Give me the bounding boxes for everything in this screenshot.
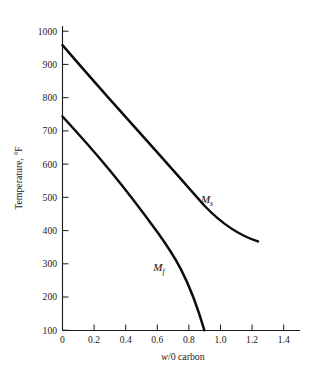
y-tick-label: 400 [43,225,58,236]
y-tick-label: 1000 [38,26,57,37]
chart-figure: 1000 900 800 700 600 500 400 300 200 100… [0,0,313,377]
y-axis-title-prefix: Temperature, [13,156,24,210]
x-tick-marks [63,325,284,331]
x-tick-label: 0.4 [120,334,132,345]
y-tick-marks [63,31,69,330]
x-tick-label: 0 [60,334,65,345]
y-tick-label: 900 [43,59,58,70]
y-tick-label: 300 [43,258,58,269]
y-tick-label: 600 [43,159,58,170]
series-label-mf: Mf [152,261,165,276]
series-label-ms: Ms [200,193,213,208]
series-label-ms-subscript: s [210,199,213,208]
x-tick-label: 0.6 [151,334,163,345]
x-tick-labels: 0 0.2 0.4 0.6 0.8 1.0 1.2 1.4 [60,334,290,345]
x-axis-title-rest: /0 carbon [168,351,205,362]
y-tick-labels: 1000 900 800 700 600 500 400 300 200 100 [38,26,57,336]
y-axis-title-degree: °F [13,146,24,156]
x-tick-label: 1.2 [246,334,258,345]
y-axis-title: Temperature, °F [13,146,24,210]
y-tick-label: 800 [43,92,58,103]
y-tick-label: 100 [43,325,58,336]
y-tick-label: 200 [43,291,58,302]
series-curve-ms [63,45,259,241]
y-tick-label: 500 [43,192,58,203]
x-tick-label: 1.4 [278,334,290,345]
x-tick-label: 0.8 [183,334,195,345]
x-axis-title: w/0 carbon [161,351,204,362]
chart-plot-area: 1000 900 800 700 600 500 400 300 200 100… [0,0,313,377]
x-tick-label: 0.2 [88,334,100,345]
y-tick-label: 700 [43,125,58,136]
series-label-mf-subscript: f [163,267,166,276]
series-curve-mf [63,117,205,331]
x-tick-label: 1.0 [215,334,227,345]
